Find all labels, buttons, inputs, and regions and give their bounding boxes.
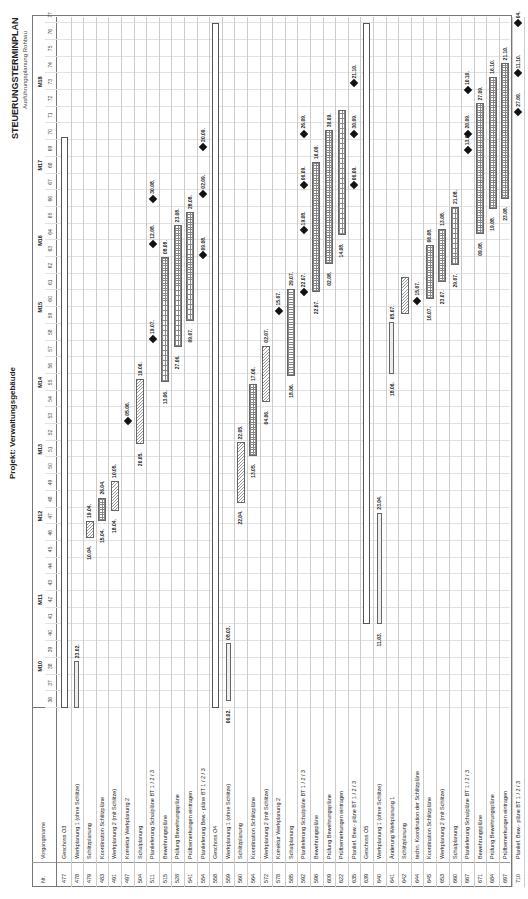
task-name: Werkplanung 1 (ohne Schlitze)	[373, 784, 386, 859]
task-name: Prüfbemerkungen eintragen	[335, 791, 348, 859]
row-number: 585	[285, 874, 298, 883]
row-divider	[398, 17, 399, 887]
task-bar	[476, 103, 484, 233]
row-number: 478	[71, 874, 84, 883]
week-label: 50	[47, 458, 53, 475]
task-name: Prüfbemerkungen eintragen	[499, 791, 512, 859]
row-number: 592	[297, 874, 310, 883]
week-label: 77	[47, 7, 53, 24]
task-name: Prüfung Bewehrungspläne	[486, 794, 499, 859]
row-divider	[234, 17, 235, 887]
row-number: 560	[234, 874, 247, 883]
row-number: 640	[373, 874, 386, 883]
row-number: 642	[398, 874, 411, 883]
task-name: Werkplanung 2 (mit Schlitze)	[108, 789, 121, 859]
column-header-name: Vorgangsname	[40, 822, 46, 859]
end-date: 26.04.	[99, 481, 105, 495]
milestone-date: 15.07.	[275, 292, 281, 306]
start-date: 02.08.	[326, 272, 332, 286]
row-divider	[209, 17, 210, 887]
week-label: 44	[47, 558, 53, 575]
milestone-date: 22.07.	[300, 273, 306, 287]
week-label: 45	[47, 541, 53, 558]
nr-divider	[32, 862, 510, 863]
row-number: 559	[222, 874, 235, 883]
week-label: 75	[47, 40, 53, 57]
milestone-date: 02.09.	[200, 175, 206, 189]
milestone-date: 20.09.	[464, 115, 470, 129]
start-date: 10.04.	[86, 546, 92, 560]
task-name: Schlitzplanung	[234, 823, 247, 859]
month-label: M13	[37, 439, 43, 459]
row-number: 558	[209, 874, 222, 883]
task-bar	[161, 257, 169, 382]
task-name: Planlieferung Schalpläne BT 1 / 2 / 3	[461, 770, 474, 859]
milestone-date: 10.10.	[464, 71, 470, 85]
task-bar	[377, 513, 382, 625]
start-date: 27.06.	[174, 355, 180, 369]
page-subtitle: Ausführungsplanung Rohbau	[22, 31, 28, 109]
task-name: Prüfung Bewehrungspläne	[171, 794, 184, 859]
project-title: Projekt: Verwaltungsgebäude	[8, 367, 17, 479]
task-name: Planlief. Bew.- pläne BT 1 / 2 / 3	[348, 781, 361, 859]
week-gridline	[45, 690, 510, 691]
end-date: 16.10.	[489, 60, 495, 74]
start-date: 11.03.	[376, 633, 382, 647]
milestone-date: 19.08.	[300, 211, 306, 225]
column-header-nr: Nr.	[40, 876, 46, 883]
week-gridline	[45, 557, 510, 558]
row-number: 515	[159, 874, 172, 883]
task-name: Schalplanung	[134, 826, 147, 859]
week-label: 70	[47, 124, 53, 141]
milestone-diamond-icon	[514, 19, 522, 27]
task-name: Geschoss O4	[209, 826, 222, 859]
row-divider	[222, 17, 223, 887]
milestone-date: 11.10.	[515, 55, 521, 69]
week-gridline	[45, 406, 510, 407]
milestone-date: 30.08.	[149, 180, 155, 194]
row-number: 483	[96, 874, 109, 883]
week-gridline	[45, 573, 510, 574]
row-divider	[171, 17, 172, 887]
task-name: Korrektur Werkplanung 2	[121, 798, 134, 859]
task-name: Schalplanung	[449, 826, 462, 859]
month-label: M14	[37, 372, 43, 392]
start-date: 18.06.	[288, 384, 294, 398]
start-date: 23.08.	[502, 207, 508, 221]
milestone-diamond-icon	[514, 108, 522, 116]
week-gridline	[45, 590, 510, 591]
row-number: 667	[461, 874, 474, 883]
task-bar	[249, 384, 257, 456]
row-divider	[247, 17, 248, 887]
start-date: 19.08.	[489, 217, 495, 231]
row-number: 645	[423, 874, 436, 883]
week-gridline	[45, 39, 510, 40]
week-gridline	[45, 540, 510, 541]
week-label: 57	[47, 341, 53, 358]
milestone-date: 05.06.	[124, 402, 130, 416]
task-name: Schlitzplanung	[83, 823, 96, 859]
row-number: 639	[360, 874, 373, 883]
task-name: Bewehrungspläne	[474, 815, 487, 859]
row-number: 653	[436, 874, 449, 883]
week-label: 37	[47, 675, 53, 692]
task-bar	[451, 207, 459, 265]
milestone-date: 12.08.	[149, 225, 155, 239]
week-gridline	[45, 189, 510, 190]
row-divider	[96, 17, 97, 887]
row-number: 635	[348, 874, 361, 883]
task-name: Korrektur Werkplanung 2	[272, 798, 285, 859]
week-gridline	[45, 89, 510, 90]
week-gridline	[45, 56, 510, 57]
end-date: 30.09.	[326, 113, 332, 127]
end-date: 29.07.	[288, 272, 294, 286]
row-number: 609	[323, 874, 336, 883]
task-bar	[312, 162, 320, 292]
milestone-date: 06.09.	[300, 166, 306, 180]
row-divider	[297, 17, 298, 887]
task-name: Änderung Werkplanung 1	[386, 797, 399, 859]
milestone-date: 06.09.	[351, 166, 357, 180]
end-date: 16.09.	[313, 145, 319, 159]
week-label: 36	[47, 691, 53, 708]
week-label: 48	[47, 491, 53, 508]
